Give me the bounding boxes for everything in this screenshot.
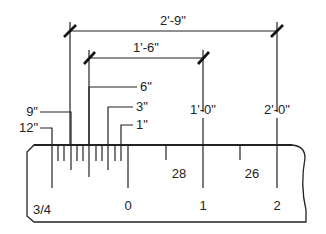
scale-label: 3/4 — [33, 202, 51, 217]
diagram-canvas: 2'-9" 1'-6" 12" 9" 6" 3" 1" 1'-0" 2'-0" … — [0, 0, 326, 234]
ruler-number-28: 28 — [172, 166, 186, 181]
callout-label-1in: 1" — [136, 117, 148, 132]
callout-label-12in: 12" — [19, 120, 38, 135]
scale-diagram: 2'-9" 1'-6" 12" 9" 6" 3" 1" 1'-0" 2'-0" … — [0, 0, 326, 234]
ruler-number-26: 26 — [245, 166, 259, 181]
ruler-number-2: 2 — [273, 198, 280, 213]
dimension-lines — [70, 22, 277, 145]
ruler-number-1: 1 — [199, 198, 206, 213]
callout-label-3in: 3" — [136, 99, 148, 114]
foot-label-2-0: 2'-0" — [264, 102, 290, 117]
foot-label-1-0: 1'-0" — [190, 102, 216, 117]
callout-leaders — [40, 87, 137, 145]
ruler-ticks — [52, 118, 277, 188]
dim-label-1-6: 1'-6" — [133, 40, 159, 55]
callout-label-6in: 6" — [140, 79, 152, 94]
ruler-number-0: 0 — [124, 198, 131, 213]
callout-label-9in: 9" — [26, 104, 38, 119]
dim-label-2-9: 2'-9" — [160, 13, 186, 28]
